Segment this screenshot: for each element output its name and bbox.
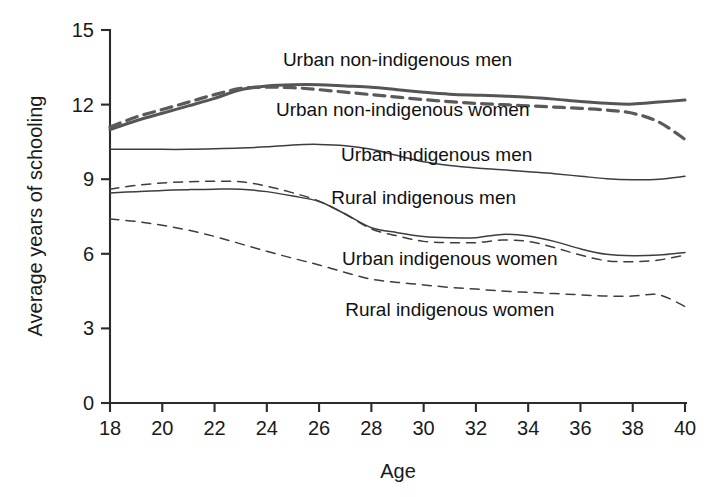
line-chart: 03691215 182022242628303234363840 Averag… [0,0,727,497]
series-label-0: Urban non-indigenous men [283,49,512,70]
x-axis-title: Age [380,460,416,482]
x-tick-label: 28 [360,417,382,439]
y-tick-label: 3 [83,317,94,339]
x-tick-label: 40 [674,417,696,439]
y-axis-title: Average years of schooling [24,96,46,337]
x-tick-label: 32 [465,417,487,439]
x-tick-label: 36 [569,417,591,439]
chart-figure: 03691215 182022242628303234363840 Averag… [0,0,727,497]
x-tick-label: 20 [151,417,173,439]
series-label-5: Rural indigenous women [345,299,554,320]
y-axis-ticks: 03691215 [72,19,110,414]
x-tick-label: 18 [99,417,121,439]
x-axis-ticks: 182022242628303234363840 [99,403,696,439]
x-tick-label: 26 [308,417,330,439]
y-tick-label: 0 [83,392,94,414]
y-tick-label: 15 [72,19,94,41]
x-tick-label: 30 [413,417,435,439]
series-labels-group: Urban non-indigenous menUrban non-indige… [276,49,558,320]
x-tick-label: 34 [517,417,539,439]
series-label-2: Urban indigenous men [341,144,532,165]
x-axis: 182022242628303234363840 [99,403,696,439]
y-tick-label: 9 [83,168,94,190]
series-label-3: Rural indigenous men [331,187,516,208]
y-tick-label: 12 [72,94,94,116]
series-label-1: Urban non-indigenous women [276,99,530,120]
y-tick-label: 6 [83,243,94,265]
x-tick-label: 38 [622,417,644,439]
x-tick-label: 22 [203,417,225,439]
x-tick-label: 24 [256,417,278,439]
series-label-4: Urban indigenous women [342,248,557,269]
y-axis: 03691215 [72,19,110,414]
